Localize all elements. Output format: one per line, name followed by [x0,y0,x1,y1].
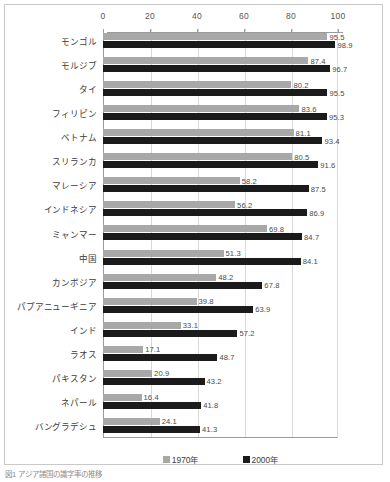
bar-value-15-1970: 16.4 [144,393,159,402]
bar-0-2000 [103,41,335,48]
category-label-10: カンボジア [52,276,97,288]
bar-value-10-1970: 48.2 [218,273,233,282]
category-label-13: ラオス [70,348,97,360]
bar-value-4-2000: 93.4 [324,136,339,145]
category-label-2: タイ [79,83,97,95]
bar-14-1970 [103,370,152,377]
bar-value-6-2000: 87.5 [311,184,326,193]
category-label-14: パキスタン [52,372,97,384]
bar-value-8-2000: 84.7 [304,232,319,241]
figure-caption: 図1 アジア諸国の識字率の推移 [5,470,255,481]
legend-label-2000: 2000年 [252,453,279,465]
legend-item-2000[interactable]: 2000年 [243,453,279,465]
bar-1-1970 [103,57,308,64]
bar-3-2000 [103,113,327,120]
bar-7-2000 [103,209,307,216]
bar-1-2000 [103,65,330,72]
bar-12-1970 [103,322,181,329]
bar-4-1970 [103,129,294,136]
legend-label-1970: 1970年 [172,453,199,465]
bar-value-1-1970: 87.4 [310,56,325,65]
bar-5-2000 [103,161,318,168]
bar-value-16-1970: 24.1 [162,417,177,426]
tick-label-80: 80 [286,11,296,21]
category-label-8: ミャンマー [52,228,97,240]
category-label-12: インド [70,324,97,336]
category-label-7: インドネシア [44,203,97,215]
bar-value-0-2000: 98.9 [337,40,352,49]
category-label-15: ネパール [61,396,97,408]
bar-3-1970 [103,105,299,112]
category-label-5: スリランカ [52,155,97,167]
bar-value-16-2000: 41.3 [202,425,217,434]
category-label-11: パプアニューギニア [17,300,97,312]
bar-value-11-2000: 63.9 [255,305,270,314]
bar-value-9-2000: 84.1 [303,257,318,266]
bar-6-1970 [103,177,240,184]
category-label-0: モンゴル [61,35,97,47]
bar-14-2000 [103,378,205,385]
bar-0-1970 [103,33,327,40]
bar-9-1970 [103,250,224,257]
bar-value-7-2000: 86.9 [309,208,324,217]
category-label-6: マレーシア [52,179,97,191]
bar-value-12-2000: 57.2 [239,329,254,338]
bar-value-14-1970: 20.9 [154,369,169,378]
bar-value-14-2000: 43.2 [207,377,222,386]
legend-swatch-2000-icon [243,456,250,463]
tick-label-100: 100 [331,11,346,21]
bar-2-2000 [103,89,327,96]
bar-value-5-1970: 80.5 [294,152,309,161]
bar-value-15-2000: 41.8 [203,401,218,410]
bar-15-1970 [103,394,142,401]
tick-label-20: 20 [145,11,155,21]
legend-item-1970[interactable]: 1970年 [163,453,199,465]
bar-5-1970 [103,153,292,160]
bar-value-4-1970: 81.1 [296,128,311,137]
bar-value-13-1970: 17.1 [145,345,160,354]
tick-label-40: 40 [192,11,202,21]
bar-value-2-2000: 95.5 [329,88,344,97]
tick-label-60: 60 [239,11,249,21]
bar-8-1970 [103,225,267,232]
bar-16-2000 [103,426,200,433]
tick-label-0: 0 [101,11,106,21]
bar-value-7-1970: 56.2 [237,200,252,209]
bar-value-10-2000: 67.8 [264,281,279,290]
chart-figure: 020406080100 モンゴルモルジブタイフィリピンベトナムスリランカマレー… [0,0,390,482]
bar-value-12-1970: 33.1 [183,321,198,330]
bar-15-2000 [103,402,201,409]
bar-value-9-1970: 51.3 [226,249,241,258]
bar-13-2000 [103,354,217,361]
bar-value-3-1970: 83.6 [301,104,316,113]
bar-9-2000 [103,258,301,265]
bar-value-8-1970: 69.8 [269,224,284,233]
bar-7-1970 [103,201,235,208]
bar-8-2000 [103,233,302,240]
bar-12-2000 [103,330,237,337]
bar-value-1-2000: 96.7 [332,64,347,73]
bar-16-1970 [103,418,160,425]
category-label-16: バングラデシュ [35,420,97,432]
category-label-1: モルジブ [61,59,97,71]
bar-6-2000 [103,185,309,192]
bar-value-11-1970: 39.8 [199,297,214,306]
bar-2-1970 [103,81,291,88]
bar-4-2000 [103,137,322,144]
bar-10-2000 [103,282,262,289]
bar-11-1970 [103,298,197,305]
category-label-3: フィリピン [52,107,97,119]
category-label-9: 中国 [79,252,97,264]
bar-value-5-2000: 91.6 [320,160,335,169]
bar-value-2-1970: 80.2 [293,80,308,89]
bar-10-1970 [103,274,216,281]
bar-value-13-2000: 48.7 [219,353,234,362]
legend-swatch-1970-icon [163,456,170,463]
chart-legend: 1970年2000年 [103,452,338,466]
category-label-4: ベトナム [61,131,97,143]
bar-value-3-2000: 95.3 [329,112,344,121]
bar-value-6-1970: 58.2 [242,176,257,185]
chart-frame: 020406080100 モンゴルモルジブタイフィリピンベトナムスリランカマレー… [4,4,383,465]
bar-13-1970 [103,346,143,353]
bar-11-2000 [103,306,253,313]
